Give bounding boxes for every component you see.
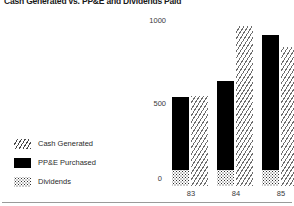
dotted-swatch-icon bbox=[14, 177, 31, 187]
chart-legend: Cash Generated PP&E Purchased Dividends bbox=[14, 134, 134, 191]
bar-segment-cash-83 bbox=[191, 96, 208, 186]
legend-label-dividends: Dividends bbox=[38, 177, 71, 186]
bar-group-83: 83 bbox=[172, 14, 210, 186]
legend-item-ppe-purchased: PP&E Purchased bbox=[14, 153, 134, 172]
bar-segment-dividends-85 bbox=[262, 170, 279, 186]
x-axis-tick-85: 85 bbox=[262, 189, 294, 198]
bar-segment-cash-85 bbox=[281, 47, 294, 186]
x-axis-tick-83: 83 bbox=[172, 189, 210, 198]
bar-segment-dividends-83 bbox=[172, 170, 189, 186]
plot-area: 1000 500 0 83 bbox=[150, 14, 294, 186]
chart-page: Cash Generated vs. PP&E and Dividends Pa… bbox=[0, 0, 294, 206]
x-axis-tick-84: 84 bbox=[217, 189, 255, 198]
y-axis-tick-1000: 1000 bbox=[149, 16, 166, 25]
bottom-divider bbox=[2, 202, 292, 203]
bar-segment-cash-84 bbox=[236, 26, 253, 186]
legend-label-cash-generated: Cash Generated bbox=[38, 139, 93, 148]
page-title: Cash Generated vs. PP&E and Dividends Pa… bbox=[4, 0, 181, 6]
legend-item-dividends: Dividends bbox=[14, 172, 134, 191]
bar-segment-ppe-84 bbox=[217, 81, 234, 170]
solid-swatch-icon bbox=[14, 158, 31, 168]
bar-group-85: 85 bbox=[262, 14, 294, 186]
bar-segment-dividends-84 bbox=[217, 170, 234, 186]
legend-item-cash-generated: Cash Generated bbox=[14, 134, 134, 153]
bar-segment-ppe-85 bbox=[262, 35, 279, 170]
bar-groups: 83 84 85 bbox=[172, 14, 294, 186]
y-axis-tick-500: 500 bbox=[153, 99, 166, 108]
bar-segment-ppe-83 bbox=[172, 97, 189, 171]
legend-label-ppe-purchased: PP&E Purchased bbox=[38, 158, 96, 167]
y-axis-tick-0: 0 bbox=[158, 174, 162, 183]
bar-group-84: 84 bbox=[217, 14, 255, 186]
hatch-swatch-icon bbox=[14, 139, 31, 149]
